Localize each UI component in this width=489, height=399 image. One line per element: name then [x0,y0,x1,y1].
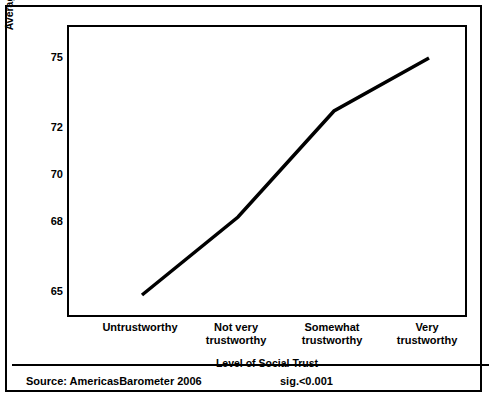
chart-outer-frame: Average Support for Democracy 75 72 70 6… [5,5,482,392]
source-note: Source: AmericasBarometer 2006 [26,375,202,387]
x-tick-label-very-trustworthy: Very trustworthy [372,321,482,347]
x-tick-label-line2: trustworthy [277,334,387,347]
y-tick-label-70: 70 [35,168,63,180]
y-tick-label-75: 75 [35,51,63,63]
y-tick-label-65: 65 [35,285,63,297]
y-axis-tick-labels: 75 72 70 68 65 [29,25,63,317]
x-tick-label-line1: Not very [181,321,291,334]
x-tick-label-not-very-trustworthy: Not very trustworthy [181,321,291,347]
x-tick-label-line1: Very [372,321,482,334]
line-chart-svg [69,27,465,315]
x-tick-label-line1: Somewhat [277,321,387,334]
plot-area [67,25,467,317]
significance-note: sig.<0.001 [280,375,333,387]
x-tick-label-line2: trustworthy [372,334,482,347]
x-tick-label-somewhat-trustworthy: Somewhat trustworthy [277,321,387,347]
x-tick-label-line1: Untrustworthy [85,321,195,334]
x-axis-tick-labels: Untrustworthy Not very trustworthy Somew… [67,321,467,361]
chart-footer: Source: AmericasBarometer 2006 sig.<0.00… [12,364,489,399]
y-tick-label-68: 68 [35,215,63,227]
data-series-line [142,58,429,295]
x-tick-label-untrustworthy: Untrustworthy [85,321,195,334]
chart-page: Average Support for Democracy 75 72 70 6… [0,0,489,399]
y-axis-title: Average Support for Democracy [3,0,15,65]
y-tick-label-72: 72 [35,121,63,133]
x-tick-label-line2: trustworthy [181,334,291,347]
